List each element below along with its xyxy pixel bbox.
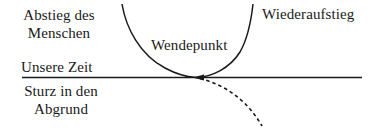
fall-label: Sturz in den Abgrund	[22, 82, 100, 118]
descent-label-line2: Menschen	[20, 24, 98, 42]
fall-label-line2: Abgrund	[22, 100, 100, 118]
fall-into-abyss-curve	[200, 79, 262, 127]
descent-label: Abstieg des Menschen	[20, 6, 98, 42]
reascent-label: Wiederaufstieg	[262, 5, 354, 23]
descent-label-line1: Abstieg des	[20, 6, 98, 24]
present-time-label: Unsere Zeit	[21, 58, 93, 76]
fall-label-line1: Sturz in den	[22, 82, 100, 100]
turning-point-label: Wendepunkt	[151, 36, 227, 54]
wendepunkt-diagram: Abstieg des Menschen Wiederaufstieg Wend…	[0, 0, 384, 133]
